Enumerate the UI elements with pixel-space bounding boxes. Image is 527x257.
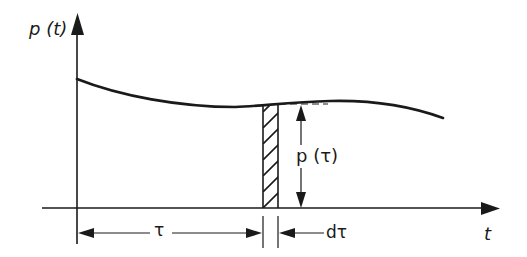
t-axis-arrowhead-icon: [481, 202, 500, 215]
arrowhead-right-icon: [246, 228, 262, 238]
dtau-label: dτ: [326, 224, 347, 241]
arrowhead-left-icon: [78, 228, 94, 238]
y-axis-label: p (t): [29, 20, 67, 38]
arrowhead-left-icon: [279, 228, 295, 238]
arrowhead-down-icon: [296, 192, 306, 208]
p-axis-arrowhead-icon: [71, 13, 84, 35]
p-curve: [77, 79, 443, 118]
tau-dimension: [78, 228, 262, 238]
x-axis-label: t: [484, 225, 491, 243]
dtau-dimension: [279, 228, 324, 238]
p-axis: [71, 13, 84, 244]
diagram-canvas: [0, 0, 527, 257]
diagram: p (t) t p (τ) τ dτ: [0, 0, 527, 257]
strip-height-label: p (τ): [296, 147, 338, 165]
arrowhead-up-icon: [296, 105, 306, 121]
hatched-strip: [263, 103, 278, 208]
tau-label: τ: [154, 222, 164, 239]
